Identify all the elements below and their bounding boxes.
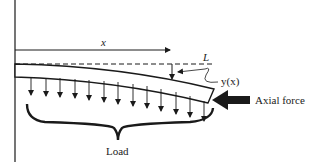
axial-force-label: Axial force bbox=[255, 94, 305, 106]
beam-body bbox=[15, 64, 214, 103]
axial-force-arrow bbox=[212, 90, 250, 110]
load-label: Load bbox=[106, 145, 129, 157]
y-label: y(x) bbox=[221, 75, 240, 88]
beam-diagram: x L y(x) Load Axial force bbox=[0, 0, 317, 162]
deflection-pointer bbox=[178, 69, 205, 72]
load-brace bbox=[27, 104, 213, 140]
L-label: L bbox=[202, 51, 209, 63]
deflection-leader bbox=[205, 68, 218, 82]
x-label: x bbox=[100, 36, 106, 48]
